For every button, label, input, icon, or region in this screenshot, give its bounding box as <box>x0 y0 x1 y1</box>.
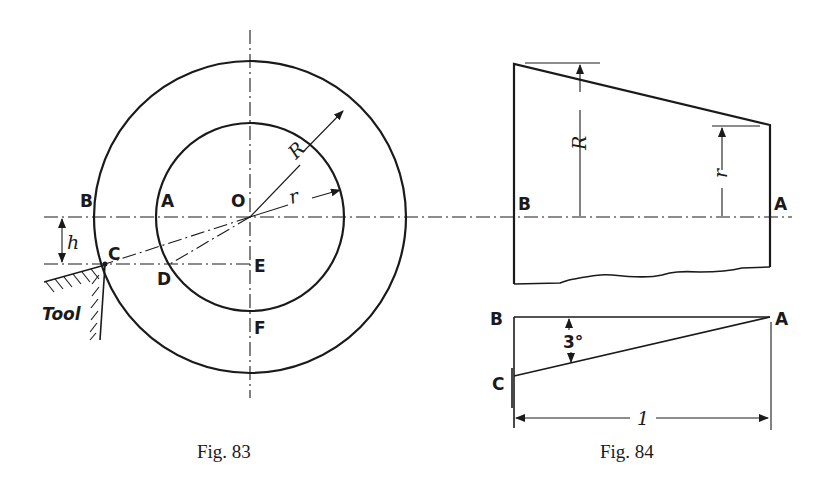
label-a: A <box>161 191 175 211</box>
label-c: C <box>108 244 120 264</box>
label-b-lower: B <box>490 309 503 329</box>
label-r-fig84: r <box>709 167 731 178</box>
point-c-marker <box>103 262 108 267</box>
caption-fig-83: Fig. 83 <box>197 441 251 462</box>
line-c-a <box>514 317 770 376</box>
label-d: D <box>157 269 171 289</box>
fig-83: B A O C D E F R r h Tool Fig. 83 <box>42 30 792 462</box>
cutting-tool <box>44 265 105 340</box>
label-tool: Tool <box>42 304 82 324</box>
line-o-d <box>170 217 250 264</box>
label-R-fig84: R <box>568 136 590 151</box>
label-a-lower: A <box>775 309 789 329</box>
label-e: E <box>254 256 266 276</box>
break-line <box>514 267 770 284</box>
caption-fig-84: Fig. 84 <box>600 441 654 462</box>
label-o: O <box>231 191 245 211</box>
label-f: F <box>254 318 266 338</box>
line-o-c <box>105 217 250 264</box>
label-b: B <box>80 191 93 211</box>
label-a-fig84: A <box>774 194 788 214</box>
label-angle: 3° <box>563 332 583 352</box>
taper-outline <box>514 64 770 284</box>
diagram-canvas: B A O C D E F R r h Tool Fig. 83 R r B A <box>0 0 831 489</box>
label-h: h <box>67 231 79 253</box>
radius-r-arrow <box>312 190 340 198</box>
radius-R-arrow <box>303 111 343 152</box>
label-length: 1 <box>637 407 649 429</box>
label-c-lower: C <box>492 374 504 394</box>
label-b-fig84: B <box>518 194 531 214</box>
fig-84: R r B A 3° 1 B A C Fig. 84 <box>490 63 789 462</box>
label-r: r <box>286 184 302 208</box>
